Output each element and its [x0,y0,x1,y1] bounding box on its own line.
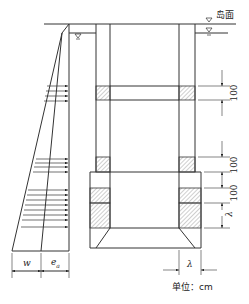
lambda-bottom-label: λ [187,259,193,269]
unit-label: 单位：cm [172,280,213,293]
dimension-100-lower: 100 [229,184,239,201]
ea-label: ea [51,257,60,269]
caisson-diagram [0,0,249,304]
dimension-100-middle: 100 [229,156,239,173]
w-label: w [23,258,31,268]
island-surface-label: 岛面 [216,8,234,21]
dimension-100-upper: 100 [229,84,239,101]
lambda-side-label: λ [224,211,234,217]
